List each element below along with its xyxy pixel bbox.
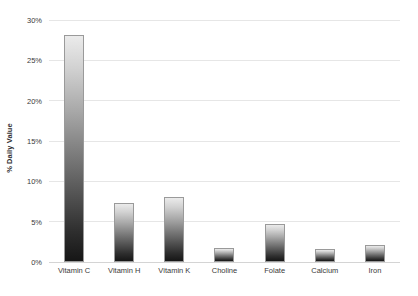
bar[interactable]: [164, 197, 184, 262]
bar-slot: [99, 20, 149, 262]
bar[interactable]: [315, 249, 335, 262]
bar-slot: [300, 20, 350, 262]
bar-chart: % Daily Value 0%5%10%15%20%25%30% Vitami…: [0, 0, 418, 296]
x-axis-tick-label: Vitamin H: [108, 266, 140, 275]
bar-slot: [49, 20, 99, 262]
bar-slot: [199, 20, 249, 262]
bar[interactable]: [265, 224, 285, 262]
x-axis-tick-label: Choline: [212, 266, 237, 275]
x-axis-tick-label: Vitamin C: [58, 266, 90, 275]
x-axis-tick-label: Calcium: [311, 266, 338, 275]
x-axis-tick-label: Iron: [368, 266, 381, 275]
plot-area: 0%5%10%15%20%25%30%: [49, 20, 400, 262]
y-axis-title: % Daily Value: [0, 0, 18, 296]
bar-slot: [149, 20, 199, 262]
y-axis-tick-label: 15%: [27, 137, 42, 146]
y-axis-tick-label: 5%: [31, 217, 42, 226]
bars-group: [49, 20, 400, 262]
y-axis-tick-label: 0%: [31, 258, 42, 267]
y-axis-tick-label: 30%: [27, 16, 42, 25]
y-axis-tick-label: 20%: [27, 96, 42, 105]
y-axis-tick-label: 10%: [27, 177, 42, 186]
bar[interactable]: [114, 203, 134, 262]
bar-slot: [350, 20, 400, 262]
bar[interactable]: [214, 248, 234, 262]
bar[interactable]: [365, 245, 385, 262]
x-axis-tick-label: Folate: [264, 266, 285, 275]
bar-slot: [250, 20, 300, 262]
bar[interactable]: [64, 35, 84, 262]
x-axis-tick-label: Vitamin K: [158, 266, 190, 275]
y-axis-tick-label: 25%: [27, 56, 42, 65]
x-axis-labels-group: Vitamin CVitamin HVitamin KCholineFolate…: [49, 266, 400, 282]
